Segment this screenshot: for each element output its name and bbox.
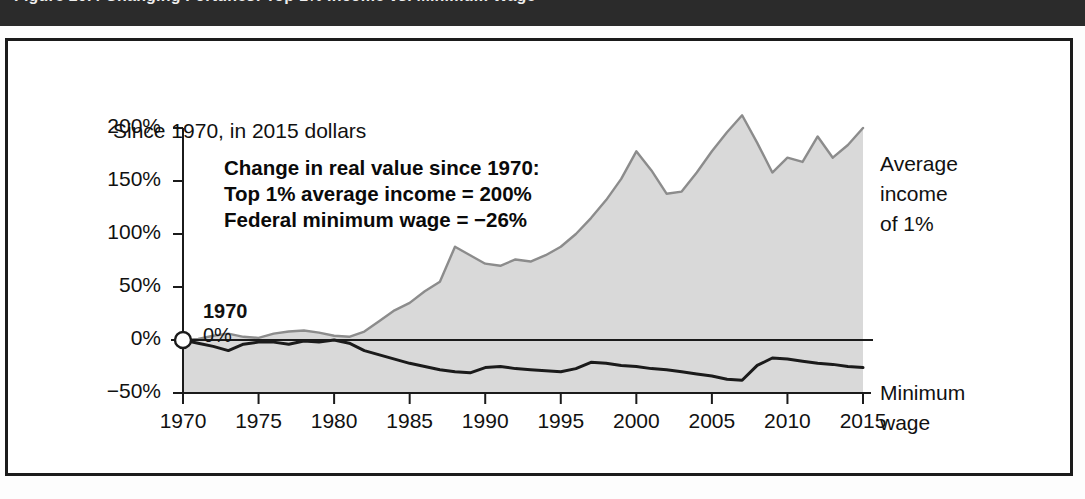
legend-top-line-3: of 1%	[880, 209, 958, 239]
x-tick-label: 2010	[752, 409, 822, 433]
y-tick-label: 200%	[75, 114, 161, 138]
annotation-line-2: Top 1% average income = 200%	[224, 181, 540, 207]
legend-bottom-line-1: Minimum	[880, 378, 965, 408]
x-tick-label: 1985	[375, 409, 445, 433]
legend-top-line-1: Average	[880, 149, 958, 179]
y-tick-label: 100%	[75, 220, 161, 244]
figure-frame: Since 1970, in 2015 dollars Change in re…	[5, 38, 1073, 476]
origin-marker-icon	[175, 298, 191, 348]
figure-caption-text: Figure 20.4 Changing Fortunes: Top 1% In…	[14, 0, 536, 5]
y-tick-label: −50%	[75, 379, 161, 403]
annotation-line-1: Change in real value since 1970:	[224, 155, 540, 181]
x-tick-label: 1980	[299, 409, 369, 433]
legend-top-line-2: income	[880, 179, 958, 209]
x-tick-label: 1975	[224, 409, 294, 433]
x-tick-label: 1995	[526, 409, 596, 433]
figure-header-bar: Figure 20.4 Changing Fortunes: Top 1% In…	[0, 0, 1085, 26]
x-tick-label: 2000	[601, 409, 671, 433]
x-tick-label: 1970	[148, 409, 218, 433]
y-tick-label: 150%	[75, 167, 161, 191]
x-tick-label: 1990	[450, 409, 520, 433]
annotation-line-3: Federal minimum wage = −26%	[224, 207, 540, 233]
figure-root: Figure 20.4 Changing Fortunes: Top 1% In…	[0, 0, 1085, 499]
origin-marker-label: 1970 0%	[203, 299, 248, 347]
chart-plot-area: Since 1970, in 2015 dollars Change in re…	[8, 41, 1076, 479]
x-tick-label: 2005	[677, 409, 747, 433]
origin-marker-value: 0%	[203, 323, 248, 347]
origin-marker-year: 1970	[203, 299, 248, 323]
y-tick-label: 0%	[75, 326, 161, 350]
x-tick-label: 2015	[828, 409, 898, 433]
legend-average-income-of-1pct: Average income of 1%	[880, 149, 958, 239]
y-tick-label: 50%	[75, 273, 161, 297]
annotation-box: Change in real value since 1970: Top 1% …	[224, 155, 540, 233]
